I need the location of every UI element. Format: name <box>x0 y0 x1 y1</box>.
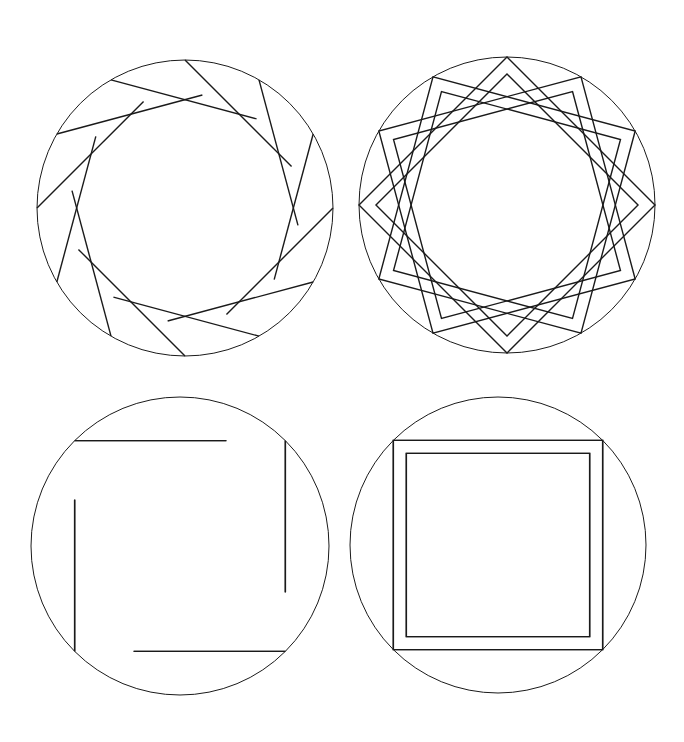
star-edge <box>259 80 298 226</box>
band-outer-edge <box>379 77 635 333</box>
star-edge <box>168 282 314 321</box>
eight-point-star-open-lines <box>31 397 329 695</box>
star-patterns-svg <box>0 0 684 742</box>
eight-point-star-interlaced <box>350 397 646 693</box>
band-outer-edge <box>393 440 602 649</box>
band-outer-edge <box>379 77 635 333</box>
bounding-circle <box>31 397 329 695</box>
bounding-circle <box>37 60 333 356</box>
band-inner-edge <box>394 92 621 319</box>
diagram-canvas <box>0 0 684 742</box>
twelve-point-star-open-lines <box>37 60 333 356</box>
star-edge <box>57 95 203 134</box>
bounding-circle <box>359 57 655 353</box>
star-edge <box>72 191 111 337</box>
band-inner-edge <box>406 453 589 636</box>
band-inner-edge <box>406 453 589 636</box>
bounding-circle <box>350 397 646 693</box>
band-inner-edge <box>394 92 621 319</box>
band-outer-edge <box>359 57 655 353</box>
band-inner-edge <box>376 74 638 336</box>
band-outer-edge <box>393 440 602 649</box>
twelve-point-star-interlaced <box>359 57 655 353</box>
